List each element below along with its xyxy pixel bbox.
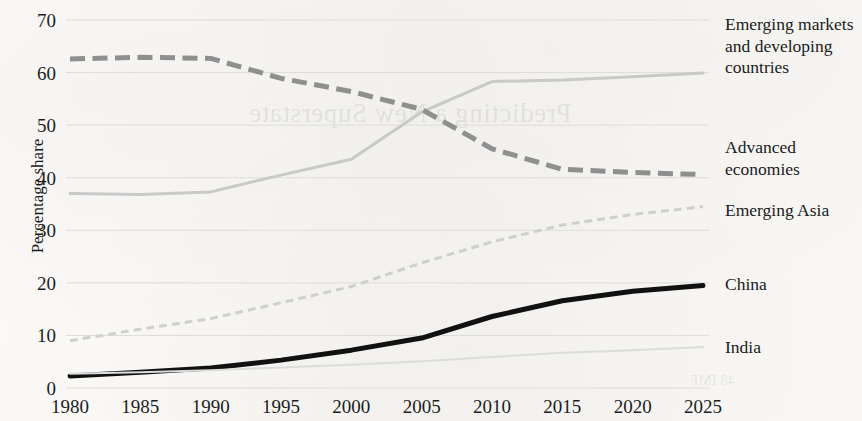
chart-page: Predicting a New Superstate 48 IMF 01020… (0, 0, 862, 421)
legend-label-advanced-economies: Advanced economies (725, 137, 860, 180)
data-series-group (70, 57, 703, 376)
legend-label-emdc: Emerging markets and developing countrie… (725, 14, 860, 79)
y-axis-title: Percentage share (28, 106, 48, 286)
series-line (70, 57, 703, 174)
series-line (70, 207, 703, 341)
gridlines (66, 20, 709, 388)
series-line (70, 73, 703, 194)
x-axis-tick-labels: 1980198519901995200020052010201520202025 (51, 396, 722, 417)
x-tick-label: 2015 (543, 396, 581, 417)
y-tick-label: 70 (37, 10, 56, 31)
x-tick-label: 2005 (403, 396, 441, 417)
x-tick-label: 1985 (121, 396, 159, 417)
x-tick-label: 1995 (262, 396, 300, 417)
x-tick-label: 2025 (684, 396, 722, 417)
y-tick-label: 10 (37, 325, 56, 346)
legend-label-china: China (725, 274, 860, 296)
legend-label-emerging-asia: Emerging Asia (725, 200, 860, 222)
y-tick-label: 60 (37, 63, 56, 84)
x-tick-label: 1980 (51, 396, 89, 417)
x-tick-label: 2000 (332, 396, 370, 417)
x-tick-label: 1990 (192, 396, 230, 417)
x-tick-label: 2010 (473, 396, 511, 417)
legend-label-india: India (725, 337, 860, 359)
x-tick-label: 2020 (614, 396, 652, 417)
